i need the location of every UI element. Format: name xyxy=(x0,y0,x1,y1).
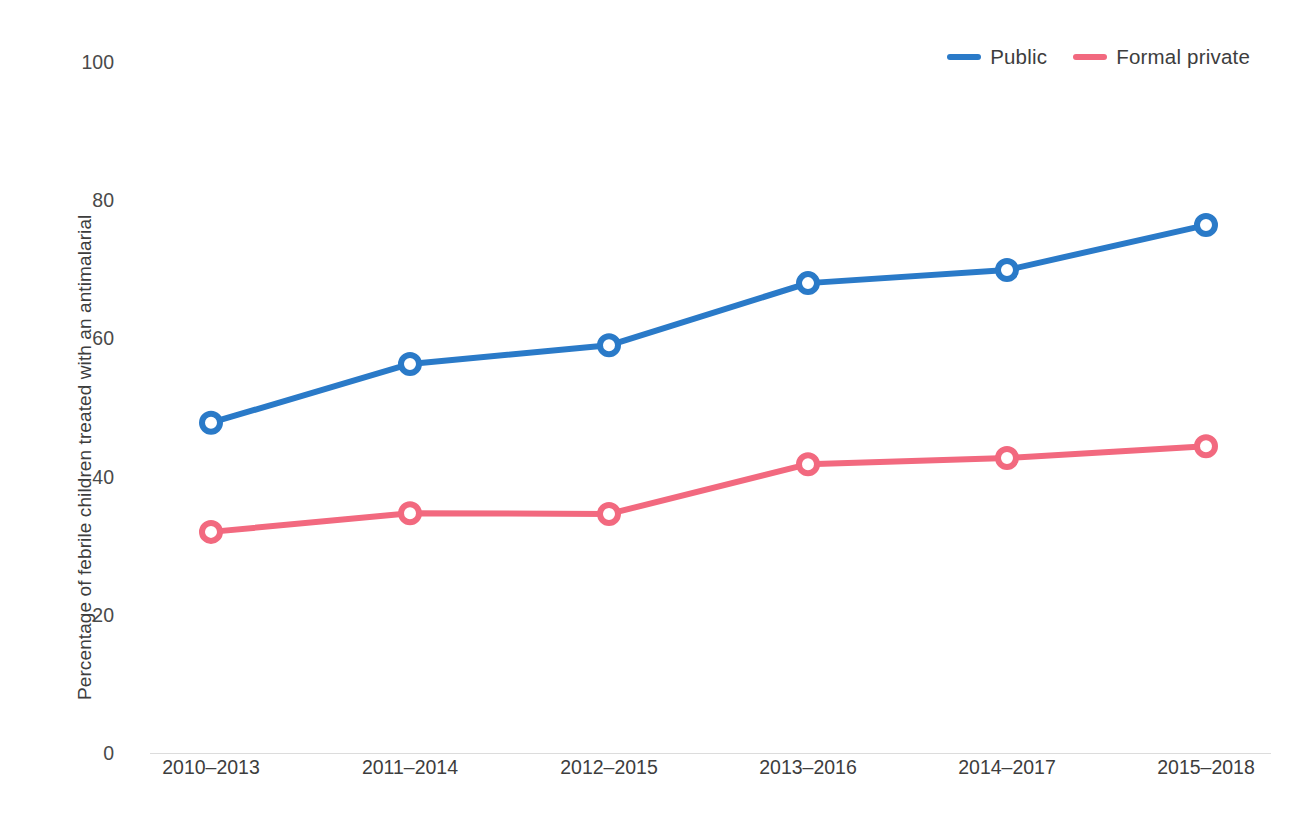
y-tick-label: 20 xyxy=(54,603,114,626)
legend-swatch-formal-private xyxy=(1073,54,1107,60)
series-line xyxy=(211,446,1206,532)
line-chart: Public Formal private Percentage of febr… xyxy=(0,0,1296,839)
data-point-marker[interactable] xyxy=(1197,216,1215,234)
data-point-marker[interactable] xyxy=(998,449,1016,467)
data-point-marker[interactable] xyxy=(600,336,618,354)
data-point-marker[interactable] xyxy=(401,355,419,373)
data-point-marker[interactable] xyxy=(1197,437,1215,455)
y-axis-title: Percentage of febrile children treated w… xyxy=(74,0,102,700)
data-point-marker[interactable] xyxy=(202,523,220,541)
x-tick-label: 2011–2014 xyxy=(300,756,520,779)
series-layer xyxy=(150,62,1271,753)
legend-swatch-public xyxy=(947,54,981,60)
data-point-marker[interactable] xyxy=(799,274,817,292)
x-tick-label: 2010–2013 xyxy=(101,756,321,779)
data-point-marker[interactable] xyxy=(998,261,1016,279)
y-tick-label: 40 xyxy=(54,465,114,488)
y-tick-label: 100 xyxy=(54,51,114,74)
series-formal-private xyxy=(202,437,1215,541)
series-line xyxy=(211,225,1206,423)
x-tick-label: 2015–2018 xyxy=(1096,756,1296,779)
y-tick-label: 60 xyxy=(54,327,114,350)
x-tick-label: 2014–2017 xyxy=(897,756,1117,779)
series-public xyxy=(202,216,1215,432)
x-tick-label: 2012–2015 xyxy=(499,756,719,779)
y-tick-label: 80 xyxy=(54,189,114,212)
data-point-marker[interactable] xyxy=(799,455,817,473)
data-point-marker[interactable] xyxy=(600,505,618,523)
data-point-marker[interactable] xyxy=(202,414,220,432)
plot-area: 020406080100 2010–20132011–20142012–2015… xyxy=(150,62,1271,753)
x-tick-label: 2013–2016 xyxy=(698,756,918,779)
data-point-marker[interactable] xyxy=(401,504,419,522)
